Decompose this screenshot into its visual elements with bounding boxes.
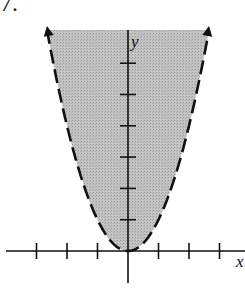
x-axis-label: x	[235, 252, 244, 271]
parabola-inequality-graph: y x	[0, 0, 245, 289]
y-axis-label: y	[129, 32, 139, 51]
